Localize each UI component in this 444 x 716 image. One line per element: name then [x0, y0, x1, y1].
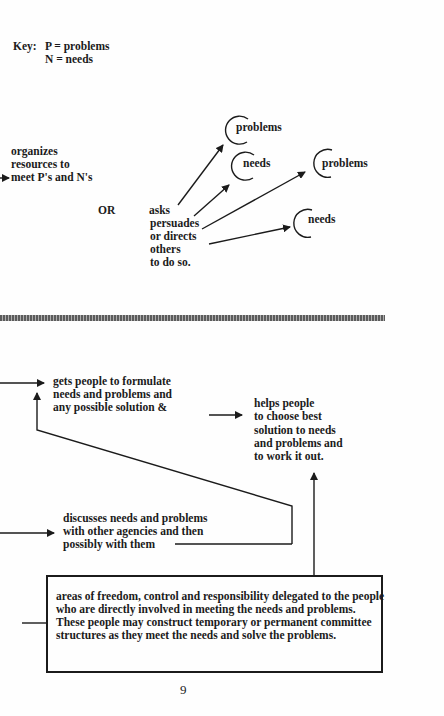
delegation-text: areas of freedom, control and responsibi… [56, 590, 386, 642]
helps-people-line-2: to choose best [254, 410, 322, 424]
discusses-line-2: with other agencies and then [63, 525, 203, 539]
helps-people-line-3: solution to needs [254, 424, 336, 438]
gets-people-line-3: any possible solution & [53, 401, 167, 415]
halftone-divider [0, 315, 385, 321]
circle-needs-2 [294, 209, 312, 237]
circle-problems-2 [314, 149, 332, 177]
arrow-to-problems-2 [202, 172, 305, 229]
circle-needs-1 [232, 152, 254, 180]
discusses-line-1: discusses needs and problems [63, 512, 208, 526]
page-number: 9 [180, 682, 187, 698]
arrow-to-needs-1 [194, 185, 229, 216]
discusses-line-3: possibly with them [63, 538, 155, 552]
helps-people-line-4: and problems and [254, 437, 343, 451]
helps-people-line-1: helps people [254, 397, 314, 411]
circle-problems-1 [226, 116, 248, 144]
gets-people-line-2: needs and problems and [53, 388, 172, 402]
helps-people-line-5: to work it out. [254, 450, 324, 464]
gets-people-line-1: gets people to formulate [53, 375, 171, 389]
arrow-to-needs-2 [209, 227, 290, 244]
